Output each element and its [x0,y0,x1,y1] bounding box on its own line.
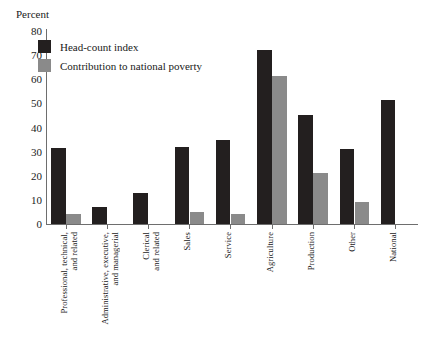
bar [133,193,148,224]
y-axis-tick-labels: 01020304050607080 [0,0,42,360]
bar [190,212,205,224]
bar [381,100,396,224]
y-tick-label: 20 [31,170,42,181]
poverty-bar-chart: Percent 01020304050607080 Head-count ind… [0,0,425,360]
chart-legend: Head-count index Contribution to nationa… [38,38,202,76]
x-axis-line [46,224,418,225]
y-tick-label: 30 [31,146,42,157]
bar [216,140,231,224]
legend-item-label: Contribution to national poverty [60,60,202,72]
bar [272,76,287,224]
bar [257,50,272,224]
legend-item-head-count-index: Head-count index [38,38,202,55]
x-axis-category-label: Administrative, executive, and manageria… [101,232,120,325]
legend-swatch-icon [38,59,51,72]
bar-group [257,31,287,224]
x-axis-category-label: Clerical and related [142,232,161,271]
bar [340,149,355,224]
legend-swatch-icon [38,40,51,53]
bar [66,214,81,224]
bar-group [216,31,246,224]
x-axis-tick [230,225,231,229]
x-axis-tick [313,225,314,229]
bar [298,115,313,224]
x-axis-tick [395,225,396,229]
bar [92,207,107,224]
x-axis-category-label: Other [348,232,358,252]
x-axis-tick [148,225,149,229]
bar [51,148,66,224]
y-tick-label: 80 [31,26,42,37]
x-axis-category-label: Professional, technical, and related [60,232,79,313]
bar [175,147,190,224]
y-tick-label: 40 [31,122,42,133]
bar [355,202,370,224]
bar [313,173,328,224]
x-axis-category-label: Production [307,232,317,270]
x-axis-category-label: Service [224,232,234,258]
x-axis-category-label: Agriculture [266,232,276,272]
legend-item-label: Head-count index [60,41,139,53]
x-axis-tick [354,225,355,229]
y-tick-label: 0 [37,219,43,230]
x-axis-tick [107,225,108,229]
x-axis-tick [189,225,190,229]
x-axis-tick [272,225,273,229]
x-axis-category-label: National [389,232,399,262]
x-axis-category-label: Sales [183,232,193,250]
legend-item-contribution-to-national-poverty: Contribution to national poverty [38,57,202,74]
bar [231,214,246,224]
bar-group [381,31,411,224]
x-axis-tick [66,225,67,229]
y-tick-label: 10 [31,194,42,205]
bar-group [298,31,328,224]
bar-group [340,31,370,224]
y-tick-label: 50 [31,98,42,109]
